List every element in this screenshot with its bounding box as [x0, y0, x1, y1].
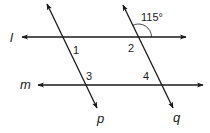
angle-label-3: 3: [86, 70, 92, 82]
angle-label-1: 1: [73, 44, 79, 56]
label-q: q: [173, 110, 181, 125]
transversal-p: [47, 4, 97, 108]
label-l: l: [10, 30, 14, 45]
angle-label-2: 2: [128, 42, 134, 54]
angle-label-4: 4: [143, 70, 149, 82]
label-p: p: [96, 111, 104, 126]
angle-label-115: 115°: [141, 11, 163, 23]
label-m: m: [20, 77, 31, 92]
parallel-lines-diagram: l m p q 1 2 3 4 115°: [0, 0, 210, 133]
